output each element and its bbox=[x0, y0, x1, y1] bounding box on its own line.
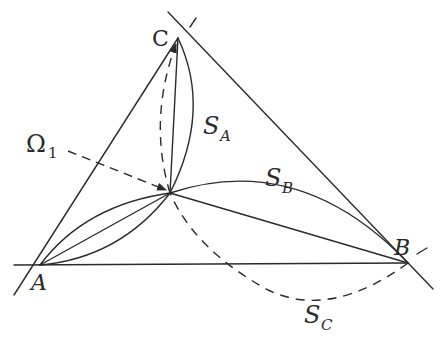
circle-s-c bbox=[170, 193, 408, 300]
side-ca bbox=[14, 38, 178, 295]
label-c: C bbox=[152, 26, 169, 51]
circle-arcs bbox=[40, 38, 408, 300]
tangent-mark-c bbox=[190, 18, 196, 27]
cevians bbox=[40, 38, 408, 265]
omega-symbol: Ω bbox=[26, 130, 46, 158]
label-s-b-sub: B bbox=[281, 179, 293, 197]
omega-label: Ω 1 bbox=[26, 130, 58, 162]
side-ab bbox=[14, 263, 408, 265]
segment-a-omega bbox=[40, 193, 170, 265]
label-s-a: S bbox=[203, 112, 219, 140]
label-a: A bbox=[29, 270, 47, 295]
segment-b-omega bbox=[170, 193, 408, 263]
label-s-a-sub: A bbox=[218, 127, 231, 145]
segment-c-omega bbox=[170, 38, 178, 193]
omega-subscript: 1 bbox=[48, 144, 58, 162]
circle-labels: S A S B S C bbox=[203, 112, 333, 334]
label-s-c-sub: C bbox=[321, 316, 333, 334]
label-b: B bbox=[393, 235, 410, 260]
label-s-c: S bbox=[304, 301, 320, 329]
label-s-b: S bbox=[265, 164, 281, 192]
brocard-point-diagram: C A B Ω 1 S A S B S C bbox=[0, 0, 448, 339]
omega-pointer-arrow bbox=[68, 151, 166, 190]
tangent-mark-b bbox=[417, 248, 427, 254]
